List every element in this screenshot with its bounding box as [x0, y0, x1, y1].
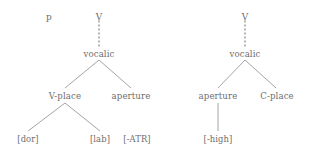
left-tree-node-segment-p: p [46, 12, 52, 22]
edge-left-vocalic-to-vplace [65, 60, 99, 88]
left-tree-leaf-dor: [dor] [17, 134, 38, 144]
right-tree-node-aperture: aperture [199, 91, 238, 101]
tree-edges [0, 0, 316, 158]
edge-left-vocalic-to-aperture [99, 60, 131, 88]
right-tree-leaf-high: [-high] [204, 134, 233, 144]
left-tree-leaf-atr: [-ATR] [123, 134, 150, 144]
edge-left-vplace-to-dor [28, 103, 65, 131]
left-tree-leaf-lab: [lab] [90, 134, 110, 144]
figure-canvas: p V vocalic V-place aperture [dor] [lab]… [0, 0, 316, 158]
left-tree-node-vocalic: vocalic [84, 49, 115, 59]
left-tree-node-v-place: V-place [49, 91, 81, 101]
edge-left-vplace-to-lab [65, 103, 100, 131]
left-tree-node-segment-v: V [96, 12, 103, 22]
edge-right-vocalic-to-cplace [245, 60, 276, 88]
right-tree-node-segment-v: V [242, 12, 249, 22]
left-tree-node-aperture: aperture [112, 91, 151, 101]
right-tree-node-c-place: C-place [260, 91, 293, 101]
edge-right-vocalic-to-aperture [218, 60, 245, 88]
right-tree-node-vocalic: vocalic [230, 49, 261, 59]
